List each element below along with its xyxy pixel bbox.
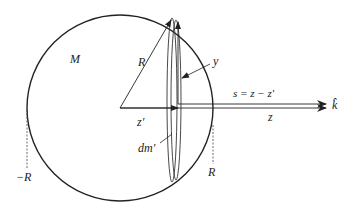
mass-element-label: dm′ xyxy=(138,142,155,154)
z-label: z xyxy=(268,111,273,123)
dm-leader xyxy=(160,134,172,143)
radius-arrow xyxy=(120,20,171,108)
sphere-diagram: M R y s = z − z′ k̂ z z′ dm′ −R R xyxy=(0,0,354,214)
diagram-canvas xyxy=(0,0,354,214)
z-prime-label: z′ xyxy=(137,116,144,128)
pos-r-label: R xyxy=(208,166,215,178)
disk-slice-outer xyxy=(167,18,177,182)
mass-label: M xyxy=(70,53,80,65)
neg-r-label: −R xyxy=(16,171,31,183)
unit-vector-label: k̂ xyxy=(332,99,337,111)
separation-label: s = z − z′ xyxy=(233,88,274,99)
y-label: y xyxy=(213,55,218,67)
radius-label: R xyxy=(138,56,145,68)
